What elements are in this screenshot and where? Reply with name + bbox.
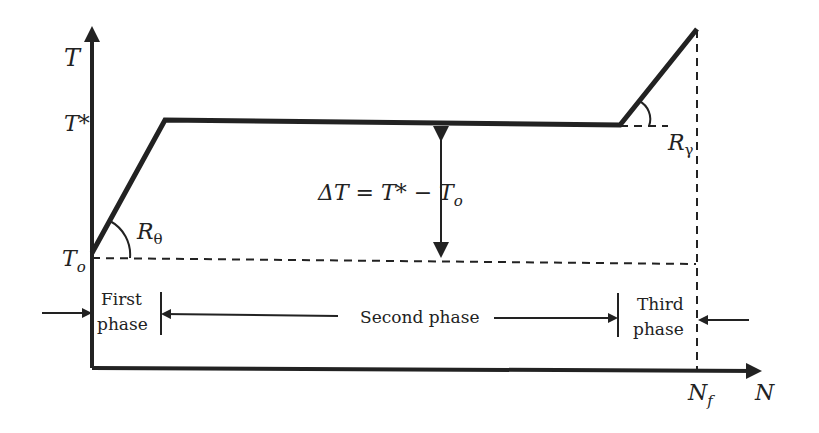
temperature-curve [92,29,697,253]
r-gamma-label: Rγ [667,130,694,159]
nf-label: Nf [687,380,715,410]
r-gamma-arc [639,101,650,126]
third-phase-label-line2: phase [633,319,684,339]
phase-diagram: T T* To Rθ Rγ ΔT = T* − To First phase S… [0,0,819,433]
third-phase-label-line1: Third [637,294,684,314]
t-star-label: T* [64,111,90,136]
n-axis-label: N [754,380,775,405]
first-phase-label-line2: phase [97,314,148,334]
r-theta-arc [110,221,130,258]
x-axis [92,368,758,371]
first-phase-label-line1: First [101,289,142,309]
to-label: To [62,246,86,276]
second-phase-label: Second phase [360,307,479,327]
second-phase-left-arrow [163,314,338,316]
r-theta-label: Rθ [136,219,163,248]
to-dashed-line [92,258,696,264]
t-axis-label: T [64,44,82,72]
